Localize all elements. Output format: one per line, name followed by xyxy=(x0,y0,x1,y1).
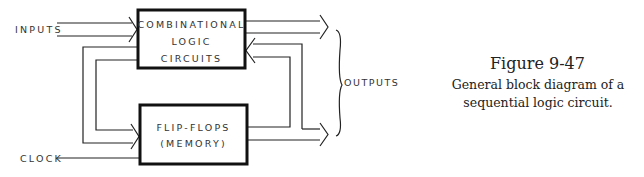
inputs-bus-arrow xyxy=(57,17,137,42)
comb-label-line2: LOGIC xyxy=(171,36,211,47)
figure-caption: General block diagram of a sequential lo… xyxy=(432,76,644,112)
comb-label-line1: COMBINATIONAL xyxy=(137,19,245,30)
ff-label-line1: FLIP-FLOPS xyxy=(156,122,230,133)
inputs-label: INPUTS xyxy=(15,24,63,35)
figure-title: Figure 9-47 xyxy=(490,54,630,73)
feedback-ff-to-comb xyxy=(246,38,302,129)
outputs-label: OUTPUTS xyxy=(344,77,399,88)
feedback-comb-to-ff xyxy=(83,47,139,149)
ff-label-line2: (MEMORY) xyxy=(160,138,227,149)
comb-output-arrow xyxy=(246,15,328,39)
outputs-brace xyxy=(336,30,342,136)
comb-label-line3: CIRCUITS xyxy=(161,53,222,64)
flip-flops-block xyxy=(140,105,247,164)
clock-label: CLOCK xyxy=(20,153,63,164)
